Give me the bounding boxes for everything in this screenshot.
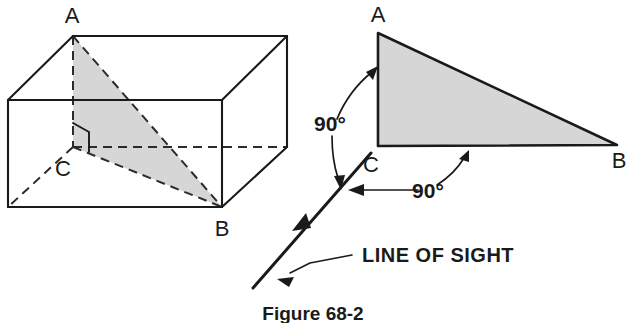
line-of-sight-label: LINE OF SIGHT (362, 244, 514, 266)
line-of-sight-leader (290, 255, 352, 273)
angle-label-90-at-a-edge: 90° (314, 112, 346, 135)
vertex-label-c-true-shape: C (363, 152, 379, 177)
figure-caption: Figure 68-2 (262, 303, 363, 323)
angle-callout-arc-lower (332, 136, 338, 178)
line-of-sight-ray (253, 153, 371, 288)
pictorial-box-view: A C B (8, 3, 287, 241)
shaded-triangle-acb-true-shape (378, 33, 617, 146)
vertex-label-b-pictorial: B (215, 216, 230, 241)
vertex-label-c-pictorial: C (55, 156, 71, 181)
edge-top-right-diag (222, 36, 287, 100)
edge-bottom-right-diag (222, 147, 287, 207)
angle-label-90-at-c-base: 90° (412, 179, 444, 202)
edge-top-left-diag (8, 36, 73, 100)
vertex-label-a-true-shape: A (371, 2, 386, 27)
angle-callout-arrowhead-base-left (348, 184, 364, 196)
figure-68-2: A C B 90° 90° (0, 0, 626, 323)
vertex-label-b-true-shape: B (612, 148, 626, 173)
vertex-label-a-pictorial: A (65, 3, 80, 28)
line-of-sight-leader-arrowhead (277, 277, 294, 287)
angle-callout-arrowhead-upper (366, 66, 378, 80)
true-shape-triangle-view: 90° 90° LINE OF SIGHT A C B (253, 2, 626, 288)
line-of-sight-arrowhead (292, 213, 311, 231)
figure-diagram-canvas: A C B 90° 90° (0, 0, 626, 323)
angle-callout-arrowhead-base (459, 150, 469, 162)
